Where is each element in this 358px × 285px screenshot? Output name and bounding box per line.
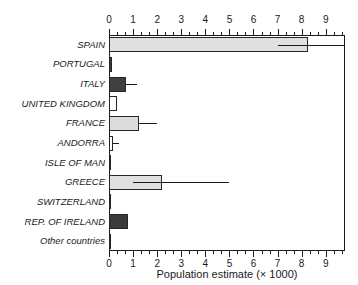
error-bar — [133, 182, 229, 183]
axis-tick-minor — [149, 251, 150, 254]
category-label: UNITED KINGDOM — [0, 99, 105, 109]
error-bar — [126, 84, 136, 85]
axis-tick-minor — [213, 251, 214, 254]
axis-tick-major — [157, 251, 158, 257]
category-label: FRANCE — [0, 118, 105, 128]
bar — [109, 96, 117, 111]
bar-chart: 0123456789 SPAINPORTUGALITALYUNITED KING… — [0, 0, 358, 285]
axis-tick-label: 8 — [292, 14, 312, 25]
axis-tick-minor — [342, 251, 343, 254]
axis-tick-minor — [310, 251, 311, 254]
axis-tick-major — [229, 251, 230, 257]
bar — [109, 77, 126, 92]
bar — [109, 214, 128, 229]
axis-tick-minor — [125, 251, 126, 254]
axis-tick-major — [133, 251, 134, 257]
category-label: SPAIN — [0, 40, 105, 50]
category-label: ANDORRA — [0, 138, 105, 148]
axis-tick-major — [278, 251, 279, 257]
category-label: SWITZERLAND — [0, 197, 105, 207]
axis-tick-minor — [117, 251, 118, 254]
bars-layer — [109, 35, 345, 251]
axis-tick-major — [109, 251, 110, 257]
category-label: ISLE OF MAN — [0, 158, 105, 168]
axis-tick-minor — [165, 251, 166, 254]
axis-tick-minor — [237, 251, 238, 254]
axis-tick-label: 3 — [171, 14, 191, 25]
error-bar — [278, 45, 344, 46]
axis-tick-label: 4 — [195, 14, 215, 25]
category-label: Other countries — [0, 236, 105, 246]
error-bar — [139, 123, 157, 124]
axis-tick-minor — [334, 251, 335, 254]
axis-tick-label: 0 — [99, 14, 119, 25]
category-label: ITALY — [0, 79, 105, 89]
axis-tick-minor — [141, 251, 142, 254]
axis-tick-label: 7 — [268, 14, 288, 25]
top-axis: 0123456789 — [109, 13, 345, 35]
axis-tick-minor — [189, 251, 190, 254]
bar — [109, 57, 112, 72]
axis-tick-label: 5 — [219, 14, 239, 25]
category-axis-labels: SPAINPORTUGALITALYUNITED KINGDOMFRANCEAN… — [0, 35, 105, 251]
category-label: PORTUGAL — [0, 59, 105, 69]
axis-tick-major — [205, 251, 206, 257]
axis-tick-label: 2 — [147, 14, 167, 25]
axis-tick-minor — [262, 251, 263, 254]
axis-tick-minor — [294, 251, 295, 254]
axis-tick-minor — [270, 251, 271, 254]
axis-tick-minor — [318, 251, 319, 254]
error-bar — [113, 143, 119, 144]
axis-tick-label: 6 — [243, 14, 263, 25]
bar — [109, 234, 111, 249]
axis-tick-minor — [286, 251, 287, 254]
bar — [109, 155, 111, 170]
category-label: REP. OF IRELAND — [0, 217, 105, 227]
axis-tick-label: 9 — [316, 14, 336, 25]
axis-tick-major — [302, 251, 303, 257]
axis-tick-major — [181, 251, 182, 257]
axis-tick-minor — [197, 251, 198, 254]
axis-tick-minor — [245, 251, 246, 254]
axis-tick-minor — [221, 251, 222, 254]
bar — [109, 194, 111, 209]
axis-tick-minor — [173, 251, 174, 254]
x-axis-title: Population estimate (× 1000) — [109, 268, 345, 280]
category-label: GREECE — [0, 177, 105, 187]
axis-tick-major — [253, 251, 254, 257]
axis-tick-label: 1 — [123, 14, 143, 25]
axis-tick-major — [326, 251, 327, 257]
bar — [109, 116, 139, 131]
